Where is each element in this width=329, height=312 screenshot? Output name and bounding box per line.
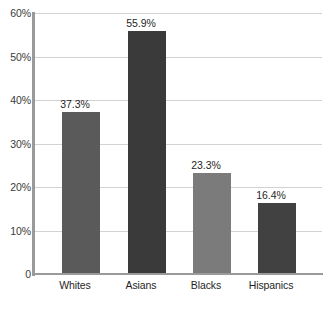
bars-layer xyxy=(34,13,322,274)
x-tick-label-asians: Asians xyxy=(104,279,178,291)
bar-value-label-hispanics: 16.4% xyxy=(238,190,304,201)
y-tick-label-10: 10% xyxy=(1,226,31,236)
bar-value-label-blacks: 23.3% xyxy=(173,160,239,171)
x-tick-label-blacks: Blacks xyxy=(169,279,243,291)
bar-value-label-whites: 37.3% xyxy=(42,99,108,110)
y-tick-label-40: 40% xyxy=(1,95,31,105)
bar-blacks[interactable] xyxy=(193,173,231,274)
bar-value-label-asians: 55.9% xyxy=(108,18,174,29)
bar-chart: 60% 50% 40% 30% 20% 10% 0 37.3% 55.9% 23… xyxy=(0,0,329,312)
x-tick-label-hispanics: Hispanics xyxy=(234,279,308,291)
y-axis-line xyxy=(32,12,35,276)
y-axis-tick-labels: 60% 50% 40% 30% 20% 10% 0 xyxy=(0,0,31,312)
bar-whites[interactable] xyxy=(62,112,100,274)
bar-hispanics[interactable] xyxy=(258,203,296,274)
y-tick-label-50: 50% xyxy=(1,52,31,62)
x-axis-line xyxy=(32,273,323,275)
y-tick-label-20: 20% xyxy=(1,182,31,192)
y-tick-label-30: 30% xyxy=(1,139,31,149)
y-tick-label-0: 0 xyxy=(1,269,31,279)
y-tick-label-60: 60% xyxy=(1,8,31,18)
plot-area xyxy=(34,13,322,274)
x-tick-label-whites: Whites xyxy=(38,279,112,291)
bar-asians[interactable] xyxy=(128,31,166,274)
